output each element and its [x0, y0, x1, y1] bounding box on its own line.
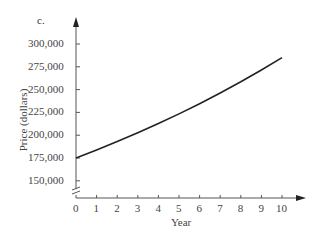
- x-tick-label: 2: [114, 202, 120, 214]
- axis-break-icon: [72, 187, 80, 194]
- x-axis-title: Year: [171, 216, 191, 228]
- x-tick-label: 3: [135, 202, 141, 214]
- y-tick-label: 300,000: [28, 37, 64, 49]
- x-axis-arrow-icon: [296, 195, 306, 201]
- y-axis-arrow-icon: [73, 17, 79, 27]
- x-tick-label: 5: [176, 202, 182, 214]
- x-tick-label: 1: [94, 202, 100, 214]
- y-tick-label: 275,000: [28, 60, 64, 72]
- y-tick-label: 200,000: [28, 128, 64, 140]
- price-curve: [76, 58, 282, 158]
- x-tick-label: 9: [258, 202, 264, 214]
- y-tick-label: 225,000: [28, 105, 64, 117]
- x-tick-label: 0: [73, 202, 79, 214]
- x-tick-label: 4: [155, 202, 161, 214]
- y-tick-label: 175,000: [28, 151, 64, 163]
- y-tick-label: 150,000: [28, 174, 64, 186]
- panel-label: c.: [37, 14, 45, 26]
- x-tick-label: 8: [238, 202, 244, 214]
- x-tick-label: 10: [276, 202, 287, 214]
- x-tick-label: 6: [197, 202, 203, 214]
- x-tick-label: 7: [217, 202, 223, 214]
- y-tick-label: 250,000: [28, 83, 64, 95]
